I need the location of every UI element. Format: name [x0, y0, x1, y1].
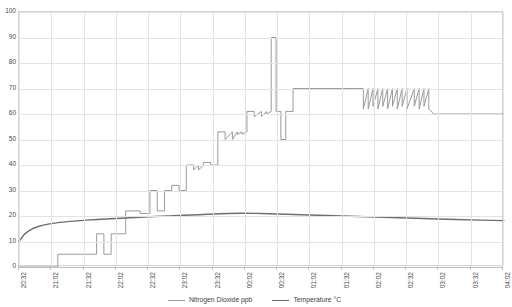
x-axis: 20:3221:0221:3222:0222:3223:0223:3200:02… — [18, 266, 503, 296]
gridline-vertical — [309, 12, 310, 265]
gridline-horizontal — [19, 38, 502, 39]
plot-area — [18, 11, 503, 266]
y-tick-label: 100 — [5, 8, 16, 15]
x-tick-mark — [179, 266, 180, 270]
gridline-horizontal — [19, 216, 502, 217]
x-tick-mark — [502, 266, 503, 270]
y-tick-label: 40 — [9, 161, 16, 168]
x-tick-label: 22:32 — [150, 272, 157, 288]
legend-swatch-icon — [168, 300, 185, 301]
gridline-vertical — [19, 12, 20, 265]
gridline-horizontal — [19, 63, 502, 64]
gridline-vertical — [374, 12, 375, 265]
x-tick-mark — [83, 266, 84, 270]
y-tick-label: 20 — [9, 212, 16, 219]
x-tick-label: 01:02 — [311, 272, 318, 288]
y-tick-label: 80 — [9, 59, 16, 66]
y-tick-label: 60 — [9, 110, 16, 117]
gridline-horizontal — [19, 242, 502, 243]
x-tick-label: 04:02 — [505, 272, 512, 288]
x-tick-label: 03:32 — [473, 272, 480, 288]
x-tick-mark — [341, 266, 342, 270]
gridline-horizontal — [19, 114, 502, 115]
y-tick-label: 10 — [9, 237, 16, 244]
gridline-vertical — [438, 12, 439, 265]
x-tick-mark — [244, 266, 245, 270]
x-tick-label: 22:02 — [118, 272, 125, 288]
x-tick-mark — [405, 266, 406, 270]
x-tick-label: 02:02 — [376, 272, 383, 288]
x-tick-mark — [437, 266, 438, 270]
gridline-vertical — [84, 12, 85, 265]
y-tick-label: 30 — [9, 186, 16, 193]
gridline-vertical — [406, 12, 407, 265]
gridline-vertical — [148, 12, 149, 265]
x-tick-mark — [18, 266, 19, 270]
x-tick-mark — [115, 266, 116, 270]
x-tick-label: 21:02 — [53, 272, 60, 288]
y-axis: 0102030405060708090100 — [0, 11, 18, 266]
gridline-vertical — [245, 12, 246, 265]
legend-label: Nitrogen Dioxide ppb — [189, 297, 252, 304]
gridline-vertical — [116, 12, 117, 265]
legend-swatch-icon — [272, 300, 289, 301]
x-tick-mark — [308, 266, 309, 270]
series-line-temperature — [19, 213, 504, 241]
gridline-vertical — [180, 12, 181, 265]
x-tick-label: 02:32 — [408, 272, 415, 288]
gridline-horizontal — [19, 89, 502, 90]
x-tick-label: 00:32 — [279, 272, 286, 288]
x-tick-mark — [276, 266, 277, 270]
x-tick-label: 01:32 — [344, 272, 351, 288]
y-tick-label: 50 — [9, 135, 16, 142]
x-tick-label: 03:02 — [440, 272, 447, 288]
series-line-nitrogen-dioxide — [19, 38, 504, 268]
x-tick-label: 20:32 — [21, 272, 28, 288]
x-tick-label: 21:32 — [86, 272, 93, 288]
gridline-vertical — [471, 12, 472, 265]
legend-label: Temperature °C — [293, 297, 341, 304]
legend-item-nitrogen-dioxide[interactable]: Nitrogen Dioxide ppb — [168, 297, 252, 304]
gridline-vertical — [213, 12, 214, 265]
x-tick-mark — [212, 266, 213, 270]
gridline-vertical — [503, 12, 504, 265]
y-tick-label: 70 — [9, 84, 16, 91]
x-tick-label: 23:02 — [182, 272, 189, 288]
gridline-horizontal — [19, 165, 502, 166]
x-tick-mark — [147, 266, 148, 270]
x-tick-mark — [50, 266, 51, 270]
y-tick-label: 90 — [9, 33, 16, 40]
gridline-vertical — [51, 12, 52, 265]
x-tick-label: 23:32 — [215, 272, 222, 288]
gridline-horizontal — [19, 12, 502, 13]
x-tick-label: 00:02 — [247, 272, 254, 288]
gridline-horizontal — [19, 140, 502, 141]
legend-item-temperature[interactable]: Temperature °C — [272, 297, 341, 304]
y-tick-label: 0 — [12, 263, 16, 270]
gridline-vertical — [342, 12, 343, 265]
x-tick-mark — [373, 266, 374, 270]
gridline-vertical — [277, 12, 278, 265]
chart-legend: Nitrogen Dioxide ppb Temperature °C — [0, 297, 509, 304]
x-tick-mark — [470, 266, 471, 270]
gridline-horizontal — [19, 191, 502, 192]
